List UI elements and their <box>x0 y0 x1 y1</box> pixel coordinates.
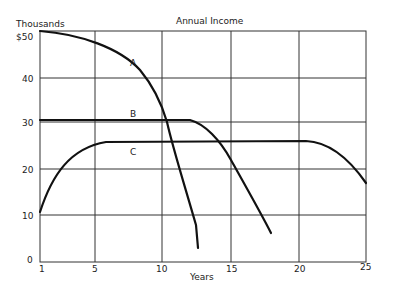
y-tick-40: 40 <box>22 74 33 84</box>
y-tick-0: 0 <box>27 255 33 265</box>
x-tick-1: 1 <box>39 264 45 274</box>
curve-c <box>40 141 366 212</box>
curve-b <box>40 120 271 233</box>
curve-a-label: A <box>130 58 136 68</box>
x-tick-20: 20 <box>294 264 305 274</box>
x-tick-5: 5 <box>92 264 98 274</box>
x-tick-15: 15 <box>226 264 237 274</box>
x-tick-10: 10 <box>156 264 167 274</box>
x-tick-25: 25 <box>360 262 371 272</box>
y-tick-10: 10 <box>22 211 33 221</box>
y-tick-20: 20 <box>22 165 33 175</box>
chart-canvas <box>0 0 393 306</box>
y-tick-50: $50 <box>16 32 33 42</box>
chart-title: Annual Income <box>176 16 243 26</box>
y-axis-label: Thousands <box>16 19 65 29</box>
x-axis-label: Years <box>190 272 214 282</box>
curve-b-label: B <box>130 109 136 119</box>
curve-c-label: C <box>130 147 136 157</box>
y-tick-30: 30 <box>22 118 33 128</box>
